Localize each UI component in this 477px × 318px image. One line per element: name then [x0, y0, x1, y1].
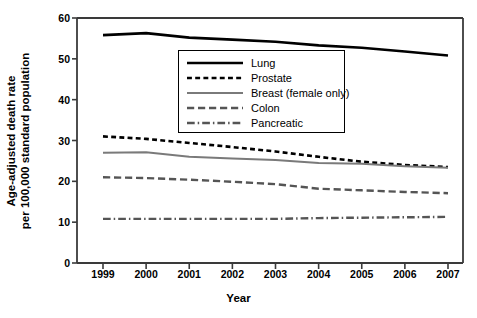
legend-label: Prostate: [251, 72, 292, 85]
legend-item: Colon: [186, 100, 280, 116]
legend-label: Pancreatic: [251, 117, 303, 130]
legend-label: Lung: [251, 57, 275, 70]
legend-item: Prostate: [186, 70, 292, 86]
plot-area: [0, 0, 477, 318]
legend-label: Breast (female only): [251, 87, 349, 100]
legend-line-swatch: [186, 101, 244, 115]
legend-label: Colon: [251, 102, 280, 115]
series-line: [103, 217, 448, 219]
legend-line-swatch: [186, 116, 244, 130]
chart-figure: Age-adjusted death rate per 100,000 stan…: [0, 0, 477, 318]
series-line: [103, 152, 448, 168]
legend-line-swatch: [186, 71, 244, 85]
legend-item: Breast (female only): [186, 85, 349, 101]
legend-item: Pancreatic: [186, 115, 303, 131]
legend-line-swatch: [186, 56, 244, 70]
series-line: [103, 177, 448, 193]
legend-item: Lung: [186, 55, 275, 71]
series-line: [103, 136, 448, 167]
chart-legend: LungProstateBreast (female only)ColonPan…: [178, 50, 345, 133]
legend-line-swatch: [186, 86, 244, 100]
